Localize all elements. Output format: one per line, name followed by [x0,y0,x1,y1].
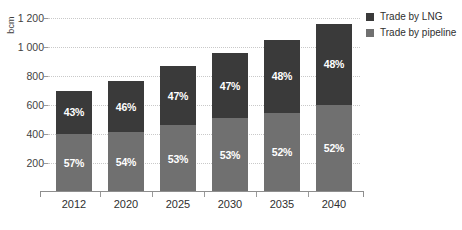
plot-area: 57%43%54%46%53%47%53%47%52%48%52%48% [48,0,360,192]
bar-segment-pipeline[interactable]: 52% [264,113,300,192]
y-axis-tick-label: 800 [2,71,44,82]
x-axis-tick-label: 2025 [152,198,204,210]
y-axis-tick-label: 1 000 [2,42,44,53]
bar-group[interactable]: 52%48% [316,24,352,192]
x-axis-tick [204,192,205,197]
x-axis-tick-label: 2020 [100,198,152,210]
bar-group[interactable]: 53%47% [212,53,248,192]
x-axis-tick-label: 2012 [48,198,100,210]
bar-percent-label: 52% [272,146,293,158]
x-axis-line [40,191,364,192]
bar-percent-label: 54% [116,156,137,168]
bar-segment-pipeline[interactable]: 54% [108,132,144,192]
bar-percent-label: 57% [64,157,85,169]
bar-segment-pipeline[interactable]: 52% [316,105,352,192]
bar-percent-label: 46% [116,101,137,113]
bar-segment-pipeline[interactable]: 53% [160,125,196,192]
x-axis-tick [256,192,257,197]
bar-percent-label: 47% [220,80,241,92]
bar-group[interactable]: 53%47% [160,66,196,192]
bar-segment-lng[interactable]: 48% [316,24,352,105]
x-axis-tick [308,192,309,197]
bar-percent-label: 48% [324,58,345,70]
y-axis-tick-labels: 1 2001 000800600400200 [0,0,44,230]
bar-segment-pipeline[interactable]: 53% [212,118,248,192]
stacked-bar-chart: bcm 1 2001 000800600400200 57%43%54%46%5… [0,0,462,230]
y-axis-tick-label: 400 [2,129,44,140]
legend-swatch-icon [366,13,374,21]
bar-segment-lng[interactable]: 47% [212,53,248,118]
bar-group[interactable]: 52%48% [264,40,300,192]
x-axis-tick [152,192,153,197]
bar-group[interactable]: 54%46% [108,81,144,192]
bar-percent-label: 53% [220,149,241,161]
x-axis-tick [100,192,101,197]
bar-percent-label: 47% [168,90,189,102]
legend-item[interactable]: Trade by LNG [366,11,462,22]
bar-percent-label: 48% [272,70,293,82]
x-axis-tick-label: 2035 [256,198,308,210]
chart-legend: Trade by LNGTrade by pipeline [366,11,462,43]
y-axis-tick-label: 200 [2,158,44,169]
legend-item-label: Trade by LNG [380,11,442,22]
bar-percent-label: 52% [324,142,345,154]
bar-percent-label: 53% [168,153,189,165]
bar-segment-lng[interactable]: 47% [160,66,196,125]
bars-layer: 57%43%54%46%53%47%53%47%52%48%52%48% [48,0,360,192]
bar-segment-lng[interactable]: 48% [264,40,300,113]
legend-item-label: Trade by pipeline [380,27,456,38]
y-axis-tick-label: 1 200 [2,13,44,24]
bar-percent-label: 43% [64,106,85,118]
bar-segment-lng[interactable]: 43% [56,91,92,135]
y-axis-tick-label: 600 [2,100,44,111]
legend-swatch-icon [366,29,374,37]
x-axis-tick-label: 2040 [308,198,360,210]
bar-segment-pipeline[interactable]: 57% [56,134,92,192]
x-axis-tick-label: 2030 [204,198,256,210]
bar-group[interactable]: 57%43% [56,91,92,193]
legend-item[interactable]: Trade by pipeline [366,27,462,38]
bar-segment-lng[interactable]: 46% [108,81,144,132]
